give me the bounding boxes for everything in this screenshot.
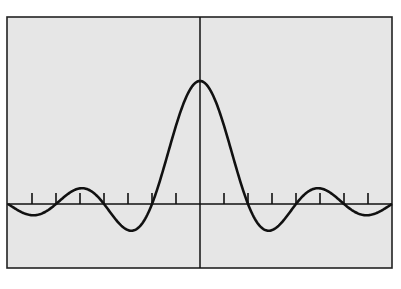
sinc-chart <box>0 0 401 289</box>
